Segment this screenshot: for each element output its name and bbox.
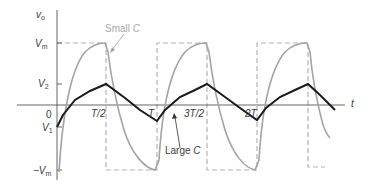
vm-label: Vm: [35, 38, 48, 50]
tick-two-t: 2T: [244, 108, 258, 119]
tick-half-t: T/2: [91, 108, 106, 119]
small-c-label: Small C: [105, 23, 141, 34]
v2-label: V2: [38, 78, 49, 90]
x-axis-label: t: [351, 98, 355, 109]
origin-label: 0: [46, 109, 52, 120]
small-c-arrowhead: [110, 47, 115, 53]
small-c-pointer: [112, 34, 124, 50]
large-c-arrowhead: [172, 113, 177, 119]
y-axis-label: vo: [36, 9, 45, 21]
large-c-curve: [57, 84, 335, 127]
neg-vm-label: −Vm: [33, 165, 52, 177]
rc-response-diagram: vo Vm V2 0 V1 −Vm t T/2 T 3T/2 2T Small …: [0, 0, 375, 188]
large-c-label: Large C: [165, 145, 201, 156]
tick-t: T: [148, 108, 155, 119]
large-c-pointer: [175, 117, 180, 148]
v1-label: V1: [42, 122, 53, 134]
tick-three-half-t: 3T/2: [184, 108, 204, 119]
